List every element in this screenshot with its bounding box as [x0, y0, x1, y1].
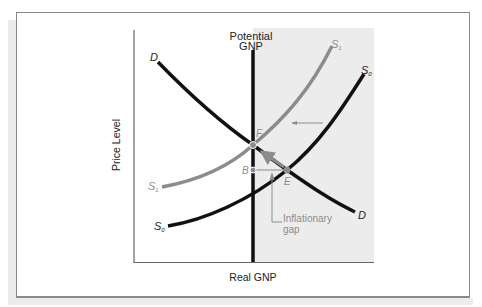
- demand-label-end: D: [358, 209, 366, 221]
- point-e-label: E: [284, 176, 291, 187]
- potential-gnp-label-line2: GNP: [239, 40, 263, 52]
- s0-label-bottom: S0: [154, 220, 165, 233]
- as-ad-diagram: Potential GNP D D S1 S1 S0 S0 F B E Infl…: [0, 0, 482, 307]
- inflationary-gap-label-line2: gap: [283, 224, 300, 235]
- point-e: [284, 167, 291, 174]
- s1-label-bottom: S1: [148, 180, 159, 193]
- inflationary-gap-label-line1: Inflationary: [283, 213, 332, 224]
- point-b-label: B: [242, 165, 249, 176]
- point-b: [250, 167, 256, 173]
- x-axis-label: Real GNP: [229, 271, 276, 283]
- demand-label-start: D: [150, 51, 158, 63]
- y-axis-label: Price Level: [110, 119, 122, 171]
- point-f-label: F: [256, 128, 263, 139]
- point-f: [250, 142, 257, 149]
